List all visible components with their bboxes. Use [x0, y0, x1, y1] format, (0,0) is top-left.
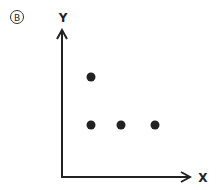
x-axis-label: X	[198, 171, 208, 185]
data-point	[87, 73, 96, 82]
data-point	[87, 121, 96, 130]
y-axis-label: Y	[58, 11, 68, 25]
data-point	[151, 121, 160, 130]
panel-label: B	[11, 11, 24, 24]
panel-label-text: B	[14, 13, 20, 23]
data-points	[87, 73, 160, 130]
scatter-diagram: B Y X	[0, 0, 218, 190]
data-point	[117, 121, 126, 130]
